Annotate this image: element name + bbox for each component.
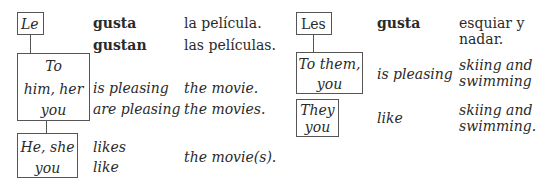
object-la-pelicula: la película.	[184, 15, 262, 31]
object-line-2: nadar.	[459, 31, 503, 47]
idiomatic-verb-plural: like	[93, 159, 119, 175]
they-you-box: They you	[296, 99, 339, 137]
les-pronoun-box: Les	[296, 12, 332, 35]
subject-line-2: you	[297, 119, 338, 135]
idiomatic-object-line-2: swimming.	[459, 118, 536, 134]
gloss-line-3: you	[18, 102, 89, 118]
subject-line-2: you	[18, 160, 77, 176]
to-him-her-box: To him, her you	[17, 53, 90, 121]
subject-line-1: They	[297, 102, 338, 118]
object-line-1: esquiar y	[459, 15, 524, 31]
literal-verb-plural: are pleasing	[93, 101, 181, 117]
le-pronoun: Le	[21, 16, 39, 32]
le-pronoun-box: Le	[17, 12, 44, 35]
connector-line	[46, 121, 47, 133]
gloss-line-1: To them,	[297, 56, 362, 72]
verb-gusta: gusta	[93, 15, 136, 31]
object-las-peliculas: las películas.	[184, 37, 276, 53]
he-she-box: He, she you	[17, 133, 78, 178]
idiomatic-object-line-1: skiing and	[459, 102, 532, 118]
to-them-box: To them, you	[296, 52, 363, 94]
idiomatic-verb-singular: likes	[93, 139, 126, 155]
literal-verb-singular: is pleasing	[93, 80, 169, 96]
les-pronoun: Les	[301, 16, 326, 32]
literal-object-line-1: skiing and	[459, 57, 532, 73]
verb-gustan: gustan	[93, 37, 147, 53]
literal-object-plural: the movies.	[184, 101, 265, 117]
literal-object-line-2: swimming	[459, 73, 532, 89]
literal-object-singular: the movie.	[184, 80, 258, 96]
gloss-line-1: To	[18, 58, 89, 74]
connector-line	[313, 34, 314, 52]
subject-line-1: He, she	[18, 139, 77, 155]
connector-line	[30, 34, 31, 53]
literal-verb: is pleasing	[377, 66, 453, 82]
gloss-line-2: you	[297, 76, 362, 92]
gloss-line-2: him, her	[18, 81, 89, 97]
idiomatic-verb: like	[377, 110, 403, 126]
idiomatic-object: the movie(s).	[184, 149, 276, 165]
verb-gusta: gusta	[377, 15, 420, 31]
